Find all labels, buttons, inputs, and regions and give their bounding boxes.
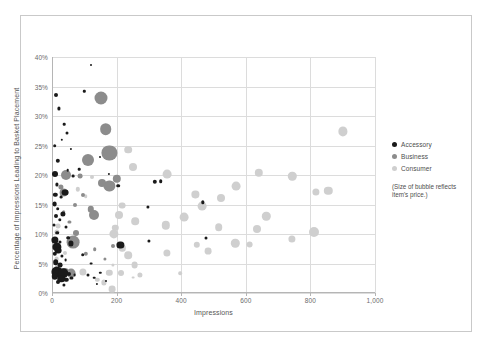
- gridline-horizontal: [52, 87, 375, 88]
- bubble-consumer: [131, 262, 138, 269]
- y-tick-label: 20%: [35, 172, 48, 179]
- x-tick-mark: [181, 293, 182, 296]
- x-tick-mark: [375, 293, 376, 296]
- bubble-consumer: [253, 225, 261, 233]
- gridline-horizontal: [52, 205, 375, 206]
- gridline-horizontal: [52, 175, 375, 176]
- x-axis-title: Impressions: [52, 309, 375, 316]
- bubble-consumer: [232, 182, 241, 191]
- legend-item-business[interactable]: Business: [392, 151, 464, 162]
- x-tick-label: 0: [50, 297, 54, 304]
- legend-items: AccessoryBusinessConsumer: [392, 139, 464, 174]
- bubble-accessory: [56, 207, 60, 211]
- x-tick-label: 200: [111, 297, 122, 304]
- y-tick-label: 5%: [38, 260, 48, 267]
- bubble-consumer: [309, 227, 319, 237]
- y-tick-label: 15%: [35, 201, 48, 208]
- bubble-consumer: [131, 276, 134, 279]
- bubble-consumer: [178, 271, 182, 275]
- gridline-horizontal: [52, 293, 375, 294]
- y-tick-label: 10%: [35, 231, 48, 238]
- bubble-consumer: [63, 251, 67, 255]
- y-tick-label: 30%: [35, 113, 48, 120]
- bubble-accessory: [99, 156, 101, 158]
- bubble-business: [98, 179, 106, 187]
- gridline-vertical: [181, 57, 182, 293]
- bubble-accessory: [64, 259, 67, 262]
- bubble-accessory: [54, 93, 58, 97]
- y-tick-label: 40%: [35, 54, 48, 61]
- bubble-business: [81, 193, 85, 197]
- y-axis-title: Percentage of Impressions Leading to Bas…: [13, 79, 20, 279]
- bubble-accessory: [60, 196, 63, 199]
- y-tick-label: 35%: [35, 83, 48, 90]
- x-tick-mark: [310, 293, 311, 296]
- bubble-accessory: [73, 274, 76, 277]
- bubble-business: [95, 92, 108, 105]
- bubble-consumer: [215, 223, 223, 231]
- bubble-consumer: [118, 202, 125, 209]
- y-tick-label: 25%: [35, 142, 48, 149]
- gridline-vertical: [375, 57, 376, 293]
- x-tick-label: 800: [305, 297, 316, 304]
- bubble-accessory: [90, 64, 92, 66]
- bubble-accessory: [78, 168, 81, 171]
- bubble-chart: Percentage of Impressions Leading to Bas…: [0, 0, 491, 348]
- bubble-accessory: [63, 123, 66, 126]
- x-tick-label: 600: [240, 297, 251, 304]
- x-tick-mark: [246, 293, 247, 296]
- bubble-business: [93, 248, 97, 252]
- gridline-vertical: [246, 57, 247, 293]
- bubble-accessory: [81, 253, 85, 257]
- bubble-business: [111, 244, 115, 248]
- bubble-business: [73, 230, 79, 236]
- bubble-accessory: [52, 223, 55, 226]
- bubble-accessory: [66, 236, 70, 240]
- bubble-accessory: [65, 131, 68, 134]
- x-tick-mark: [117, 293, 118, 296]
- bubble-business: [100, 123, 112, 135]
- bubble-consumer: [90, 175, 94, 179]
- x-tick-label: 400: [176, 297, 187, 304]
- legend-marker-icon: [392, 166, 397, 171]
- bubble-accessory: [56, 280, 60, 284]
- bubble-consumer: [129, 163, 137, 171]
- bubble-accessory: [52, 202, 57, 207]
- legend-item-accessory[interactable]: Accessory: [392, 139, 464, 150]
- bubble-accessory: [62, 189, 69, 196]
- bubble-consumer: [109, 286, 116, 293]
- bubble-accessory: [89, 262, 92, 265]
- bubble-business: [82, 154, 94, 166]
- bubble-consumer: [118, 270, 124, 276]
- bubble-accessory: [53, 144, 57, 148]
- bubble-consumer: [115, 211, 123, 219]
- bubble-consumer: [124, 251, 132, 259]
- bubble-accessory: [55, 231, 59, 235]
- legend-marker-icon: [392, 142, 397, 147]
- legend-size-note: (Size of bubble reflects item's price.): [392, 183, 458, 199]
- bubble-accessory: [87, 274, 90, 277]
- legend-item-consumer[interactable]: Consumer: [392, 163, 464, 174]
- bubble-consumer: [132, 217, 140, 225]
- bubble-accessory: [105, 280, 107, 282]
- bubble-consumer: [179, 213, 188, 222]
- gridline-horizontal: [52, 264, 375, 265]
- bubble-business: [73, 203, 77, 207]
- y-axis-tick-labels: 0%5%10%15%20%25%30%35%40%: [26, 57, 48, 293]
- legend-label: Consumer: [401, 165, 432, 172]
- bubble-accessory: [54, 214, 58, 218]
- bubble-accessory: [52, 171, 58, 177]
- gridline-horizontal: [52, 116, 375, 117]
- gridline-horizontal: [52, 234, 375, 235]
- bubble-accessory: [159, 180, 163, 184]
- bubble-consumer: [163, 170, 172, 179]
- gridline-horizontal: [52, 146, 375, 147]
- legend-label: Accessory: [401, 141, 432, 148]
- legend-marker-icon: [392, 154, 397, 159]
- bubble-accessory: [72, 175, 75, 178]
- bubble-consumer: [124, 146, 132, 154]
- bubble-accessory: [116, 184, 120, 188]
- x-axis-line: [52, 292, 375, 293]
- bubble-accessory: [205, 237, 208, 240]
- legend: AccessoryBusinessConsumer (Size of bubbl…: [392, 139, 464, 199]
